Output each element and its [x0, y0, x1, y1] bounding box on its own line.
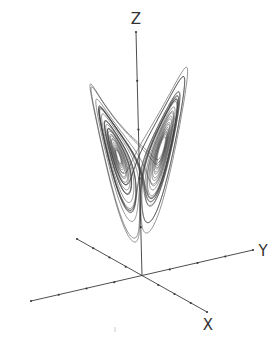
axis-tick: [58, 294, 60, 296]
axis-tick: [92, 247, 94, 249]
z-axis-label: Z: [131, 10, 141, 28]
axis-tick: [85, 287, 87, 289]
axis-tick: [206, 311, 208, 313]
axis-tick: [169, 268, 171, 270]
axis-tick: [190, 302, 192, 304]
axis-tick: [113, 281, 115, 283]
axis-tick: [173, 293, 175, 295]
lorenz-attractor-figure: Z Y X: [0, 0, 274, 342]
axis-tick: [252, 249, 254, 251]
axis-tick: [125, 266, 127, 268]
x-axis-label: X: [203, 316, 213, 334]
axis-tick: [137, 129, 139, 131]
z-axis-line: [136, 32, 142, 276]
axis-tick: [196, 262, 198, 264]
axis-tick: [76, 238, 78, 240]
axis-tick: [108, 256, 110, 258]
axis-tick: [157, 284, 159, 286]
axis-tick: [30, 300, 32, 302]
axis-tick: [140, 226, 142, 228]
axis-tick: [135, 31, 137, 33]
y-axis-label: Y: [257, 242, 268, 260]
axis-tick: [224, 255, 226, 257]
axis-tick: [136, 80, 138, 82]
